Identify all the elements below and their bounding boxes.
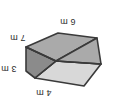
dimension-label-length: 6 m xyxy=(60,17,76,27)
dimension-label-width: 4 m xyxy=(36,88,52,98)
dimension-label-depth: 7 m xyxy=(10,33,26,43)
dimension-label-height: 3 m xyxy=(1,64,17,74)
geometry-figure: 6 m 7 m 3 m 4 m xyxy=(0,0,118,105)
rectangular-prism-drawing xyxy=(0,0,118,105)
